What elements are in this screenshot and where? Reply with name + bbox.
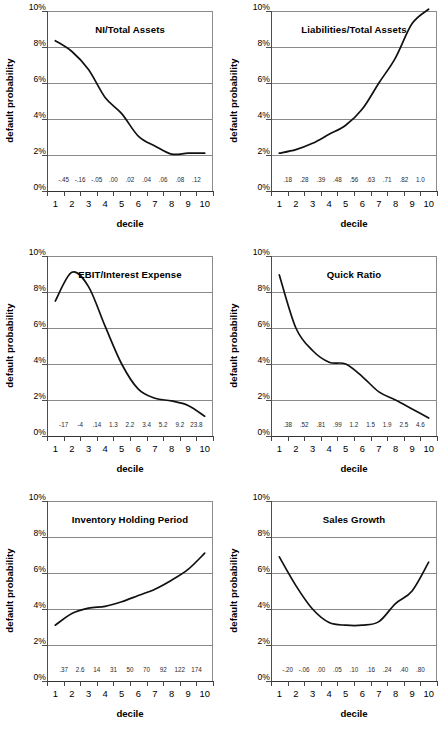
x-axis-tick-mark [47, 436, 48, 441]
x-axis-tick-mark [337, 436, 338, 441]
x-axis-tick-mark [180, 436, 181, 441]
bin-value-label: .63 [366, 176, 375, 183]
x-axis-tick-labels: 12345678910 [47, 688, 213, 702]
bin-value-label: 174 [191, 666, 202, 673]
x-axis-tick-mark [420, 436, 421, 441]
x-axis-tick-label: 2 [69, 443, 74, 454]
x-axis-tick-mark [288, 191, 289, 196]
bin-value-label: 2.5 [399, 421, 408, 428]
y-axis-caption: default probability [222, 490, 244, 690]
x-axis-tick-label: 10 [423, 688, 433, 699]
y-axis-caption: default probability [0, 490, 20, 690]
x-axis-tick-mark [196, 681, 197, 686]
x-axis-tick-mark [288, 681, 289, 686]
x-axis-tick-mark [80, 436, 81, 441]
y-axis-caption-label: default probability [4, 548, 15, 632]
bin-value-label: .39 [316, 176, 325, 183]
bin-value-label: .99 [333, 421, 342, 428]
y-axis-caption: default probability [0, 245, 20, 445]
x-axis-tick-label: 9 [185, 198, 190, 209]
x-axis-tick-mark [196, 191, 197, 196]
x-axis-tick-label: 1 [277, 688, 282, 699]
x-axis-caption: decile [47, 463, 213, 474]
x-axis-tick-label: 7 [152, 443, 157, 454]
x-axis-tick-label: 3 [86, 198, 91, 209]
x-axis-tick-label: 6 [136, 688, 141, 699]
chart-title: Inventory Holding Period [47, 514, 213, 525]
data-series-line [47, 11, 213, 191]
bin-value-label: -4 [77, 421, 83, 428]
bin-value-label: 92 [160, 666, 167, 673]
chart-panel: default probability10%8%6%4%2%0%NI/Total… [0, 0, 224, 245]
x-axis-tick-label: 8 [169, 198, 174, 209]
x-axis-tick-mark [80, 681, 81, 686]
x-axis-tick-mark [80, 191, 81, 196]
x-axis-tick-mark [271, 191, 272, 196]
bin-value-label: .71 [383, 176, 392, 183]
x-axis-tick-labels: 12345678910 [271, 688, 437, 702]
x-axis-tick-label: 5 [343, 688, 348, 699]
series-path [55, 553, 204, 625]
x-axis-tick-mark [354, 681, 355, 686]
bin-value-label: .52 [300, 421, 309, 428]
bin-value-label: .04 [142, 176, 151, 183]
data-series-line [271, 501, 437, 681]
x-axis-tick-marks [47, 436, 213, 441]
bin-value-label: 4.6 [416, 421, 425, 428]
x-axis-tick-label: 2 [293, 443, 298, 454]
chart-panel: default probability10%8%6%4%2%0%Quick Ra… [224, 245, 448, 490]
bin-value-label: 1.5 [366, 421, 375, 428]
x-axis-tick-label: 7 [376, 688, 381, 699]
x-axis-tick-mark [147, 191, 148, 196]
x-axis-tick-mark [180, 191, 181, 196]
x-axis-tick-label: 1 [277, 198, 282, 209]
bin-value-label: .40 [399, 666, 408, 673]
chart-grid: default probability10%8%6%4%2%0%NI/Total… [0, 0, 448, 735]
chart-title: Liabilities/Total Assets [271, 24, 437, 35]
bin-value-label: 1.0 [416, 176, 425, 183]
bin-value-labels: .18.28.39.48.56.63.71.821.0 [271, 176, 437, 188]
x-axis-tick-label: 4 [326, 443, 331, 454]
x-axis-tick-mark [64, 191, 65, 196]
x-axis-tick-label: 4 [326, 688, 331, 699]
x-axis-tick-label: 10 [423, 443, 433, 454]
x-axis-tick-marks [47, 191, 213, 196]
x-axis-tick-mark [337, 191, 338, 196]
y-axis-caption-label: default probability [4, 303, 15, 387]
x-axis-caption: decile [271, 463, 437, 474]
x-axis-tick-label: 10 [199, 688, 209, 699]
x-axis-tick-mark [64, 436, 65, 441]
bin-value-label: -.45 [58, 176, 69, 183]
x-axis-caption: decile [271, 708, 437, 719]
y-axis-caption-label: default probability [4, 58, 15, 142]
bin-value-label: .00 [316, 666, 325, 673]
x-axis-tick-label: 3 [86, 443, 91, 454]
series-path [55, 272, 204, 416]
x-axis-tick-mark [321, 436, 322, 441]
bin-value-label: 1.2 [350, 421, 359, 428]
x-axis-tick-mark [437, 191, 438, 196]
x-axis-tick-label: 8 [393, 443, 398, 454]
bin-value-label: .56 [350, 176, 359, 183]
x-axis-tick-label: 1 [53, 198, 58, 209]
chart-title: Quick Ratio [271, 269, 437, 280]
x-axis-tick-label: 6 [360, 688, 365, 699]
x-axis-tick-label: 5 [119, 443, 124, 454]
x-axis-tick-label: 9 [409, 443, 414, 454]
x-axis-tick-mark [271, 681, 272, 686]
x-axis-tick-mark [64, 681, 65, 686]
chart-panel: default probability10%8%6%4%2%0%Sales Gr… [224, 490, 448, 735]
x-axis-tick-mark [354, 436, 355, 441]
x-axis-tick-label: 8 [169, 443, 174, 454]
x-axis-tick-label: 4 [102, 198, 107, 209]
x-axis-tick-mark [196, 436, 197, 441]
x-axis-tick-label: 7 [152, 688, 157, 699]
bin-value-label: 2.2 [126, 421, 135, 428]
x-axis-caption: decile [47, 218, 213, 229]
x-axis-tick-label: 7 [152, 198, 157, 209]
x-axis-tick-mark [213, 436, 214, 441]
x-axis-tick-mark [213, 191, 214, 196]
bin-value-label: 14 [93, 666, 100, 673]
y-axis-caption: default probability [222, 245, 244, 445]
chart-title: EBIT/Interest Expense [47, 269, 213, 280]
